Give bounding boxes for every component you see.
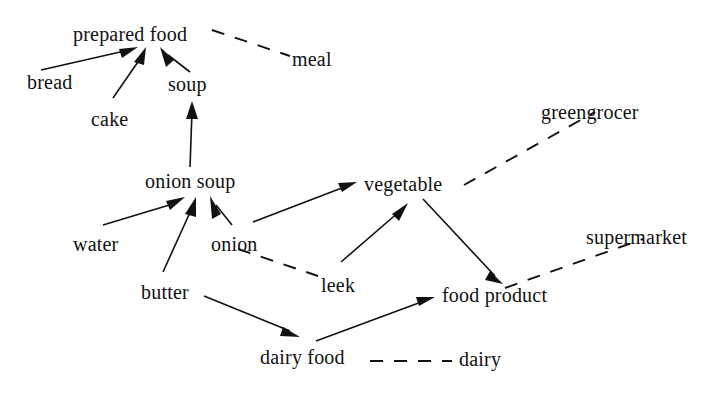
edge-prepared-food-to-meal	[212, 30, 290, 56]
edge-onion-to-onion-soup	[210, 196, 232, 225]
diagram-canvas: prepared food meal bread soup cake green…	[0, 0, 726, 395]
edge-cake-to-prepared-food	[113, 47, 146, 98]
node-soup[interactable]: soup	[168, 74, 207, 94]
edge-bread-to-prepared-food	[41, 47, 138, 70]
arrow-head	[166, 197, 185, 210]
edge-butter-to-onion-soup	[163, 197, 196, 272]
node-food-product[interactable]: food product	[442, 285, 547, 305]
node-leek[interactable]: leek	[321, 275, 355, 295]
arrow-head	[280, 327, 300, 337]
node-vegetable[interactable]: vegetable	[364, 174, 442, 194]
node-bread[interactable]: bread	[27, 72, 72, 92]
edge-layer	[0, 0, 726, 395]
edge-soup-to-prepared-food	[160, 47, 190, 72]
node-supermarket[interactable]: supermarket	[586, 227, 687, 247]
edge-leek-to-vegetable	[341, 203, 408, 262]
edge-onion-soup-to-soup	[186, 101, 198, 167]
arrow-head	[338, 182, 357, 192]
node-prepared-food[interactable]: prepared food	[73, 24, 187, 44]
node-onion-soup[interactable]: onion soup	[145, 171, 235, 191]
edge-onion-to-vegetable	[253, 182, 357, 222]
edge-water-to-onion-soup	[103, 197, 185, 225]
edge-dairy-food-to-food-product	[316, 297, 435, 341]
node-meal[interactable]: meal	[292, 49, 332, 69]
node-dairy-food[interactable]: dairy food	[260, 347, 345, 367]
node-onion[interactable]: onion	[211, 234, 258, 254]
arrow-head	[392, 203, 408, 221]
arrow-head	[160, 47, 174, 67]
arrow-head	[210, 196, 221, 219]
arrow-head	[186, 101, 198, 119]
arrow-head	[485, 271, 503, 284]
edge-butter-to-dairy-food	[204, 296, 300, 337]
node-water[interactable]: water	[73, 234, 118, 254]
node-cake[interactable]: cake	[91, 109, 128, 129]
arrow-head	[416, 297, 435, 306]
arrow-head	[185, 197, 196, 217]
arrow-head	[134, 47, 146, 65]
node-dairy[interactable]: dairy	[459, 349, 501, 369]
node-butter[interactable]: butter	[141, 282, 189, 302]
arrow-head	[119, 47, 138, 58]
edge-vegetable-to-food-product	[423, 199, 503, 284]
node-greengrocer[interactable]: greengrocer	[541, 102, 639, 122]
